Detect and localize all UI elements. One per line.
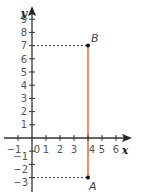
y-tick-label: −3	[13, 177, 28, 188]
x-axis-label: x	[121, 144, 129, 157]
y-tick-label: 6	[21, 54, 27, 65]
point-a-label: A	[88, 180, 97, 193]
y-tick-label: 8	[21, 27, 27, 38]
x-tick-label: 1	[43, 144, 49, 155]
y-tick-label: 7	[21, 40, 27, 51]
y-tick-label: 1	[21, 119, 27, 130]
x-tick-label: 4	[89, 144, 95, 155]
point-b-label: B	[91, 32, 99, 45]
y-tick-label: 5	[21, 67, 27, 78]
coordinate-plane: −1 0 1 2 3 4 5 6 9 8 7 6 5 4 3 2 1 −1 −2…	[0, 0, 146, 193]
y-tick-label: 3	[21, 93, 27, 104]
point-b	[86, 44, 90, 48]
x-tick-label: 3	[71, 144, 77, 155]
x-tick-label: 6	[113, 144, 119, 155]
x-tick-label: 0	[34, 144, 40, 155]
y-tick-label: 2	[21, 106, 27, 117]
y-tick-label: −2	[13, 164, 28, 175]
x-tick-label: 2	[57, 144, 63, 155]
y-tick-label: −1	[13, 151, 28, 162]
y-tick-label: 4	[21, 80, 27, 91]
point-a	[86, 176, 90, 180]
y-axis-label: y	[20, 7, 29, 20]
x-tick-label: 5	[99, 144, 105, 155]
